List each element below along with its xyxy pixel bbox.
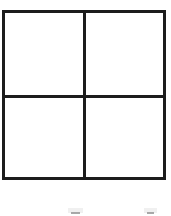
page-canvas <box>0 0 171 216</box>
clipped-caption-fragments <box>0 208 171 216</box>
four-quadrant-square-figure <box>2 10 166 180</box>
caption-fragment-right <box>147 212 154 214</box>
quadrant-top-right[interactable] <box>86 13 164 95</box>
caption-fragment-left <box>71 212 80 214</box>
quadrant-bottom-right[interactable] <box>86 98 164 180</box>
quadrant-bottom-left[interactable] <box>5 98 83 180</box>
quadrant-top-left[interactable] <box>5 13 83 95</box>
